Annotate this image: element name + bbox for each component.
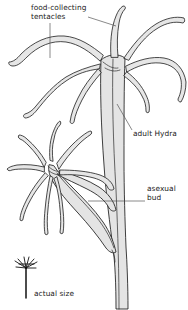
hydra-drawing: .bodyfill { fill: #e4e4e4; stroke: #1d1d… [0, 0, 188, 310]
label-food-collecting-tentacles: food-collecting tentacles [31, 3, 86, 21]
label-food-collecting-tentacles-line1: food-collecting [31, 3, 86, 12]
label-actual-size: actual size [34, 289, 74, 298]
label-asexual-bud-line2: bud [147, 193, 176, 202]
label-adult-hydra: adult Hydra [133, 129, 177, 138]
label-food-collecting-tentacles-line2: tentacles [31, 12, 86, 21]
label-asexual-bud-line1: asexual [147, 184, 176, 193]
adult-hydra-tentacles [9, 6, 186, 124]
hydra-diagram: .bodyfill { fill: #e4e4e4; stroke: #1d1d… [0, 0, 188, 310]
label-asexual-bud: asexual bud [147, 184, 176, 202]
